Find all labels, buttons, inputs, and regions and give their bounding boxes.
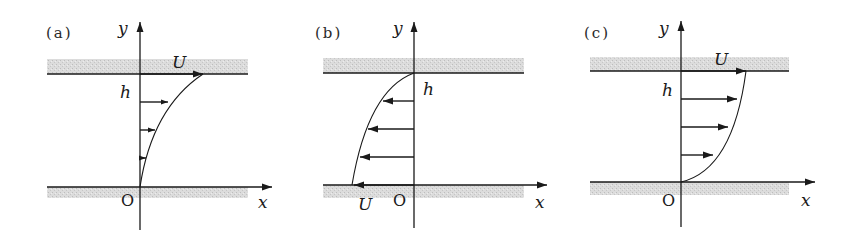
couette-flow-figure: (a) y U h O x (b) [0,0,854,239]
bottom-plate-shading [47,187,248,198]
y-axis-label: y [658,18,669,38]
x-axis-label: x [801,190,811,210]
origin-label: O [662,191,675,210]
x-axis-label: x [258,192,268,212]
top-plate-shading [590,57,789,71]
velocity-label: U [172,52,187,72]
height-label: h [662,80,673,100]
top-plate-shading [323,58,524,73]
bottom-plate-shading [323,185,524,198]
height-label: h [120,82,131,102]
panel-label: (c) [584,24,610,42]
bottom-plate-shading [590,182,789,195]
panel-b: (b) y h U O x [315,18,547,228]
velocity-label: U [358,194,373,214]
panel-label: (b) [315,24,342,42]
origin-label: O [393,191,406,210]
panel-c: (c) y U h O x [584,18,815,227]
panel-a: (a) y U h O x [46,18,272,230]
y-axis-label: y [117,18,128,38]
panel-label: (a) [46,24,73,42]
height-label: h [423,79,434,99]
origin-label: O [121,191,134,210]
top-plate-shading [47,59,248,74]
x-axis-label: x [535,192,545,212]
y-axis-label: y [392,18,403,38]
velocity-label: U [714,49,729,69]
